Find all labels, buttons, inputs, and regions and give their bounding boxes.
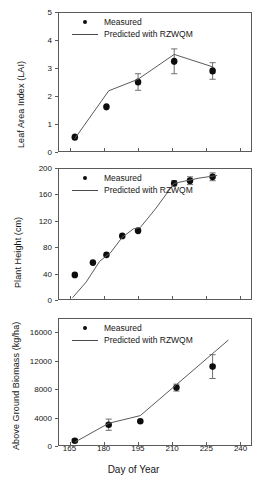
x-tick-mark <box>172 296 173 299</box>
data-point-measured <box>173 384 180 391</box>
x-tick-mark <box>104 296 105 299</box>
legend-entry-measured: Measured <box>70 16 193 28</box>
legend-label-predicted: Predicted with RZWQM <box>100 29 193 39</box>
y-tick-label: 160 <box>39 190 52 199</box>
predicted-line <box>75 54 213 138</box>
x-tick-mark <box>138 148 139 151</box>
y-tick-label: 80 <box>43 243 52 252</box>
measured-dot-icon <box>70 20 100 25</box>
y-tick-label: 0 <box>48 442 52 451</box>
data-point-measured <box>72 272 79 279</box>
y-tick-label: 4 <box>48 36 52 45</box>
x-tick-label: 165 <box>63 444 76 453</box>
legend-label-predicted: Predicted with RZWQM <box>100 335 193 345</box>
legend-label-predicted: Predicted with RZWQM <box>100 185 193 195</box>
legend-entry-predicted: Predicted with RZWQM <box>70 28 193 40</box>
y-tick-label: 5 <box>48 8 52 17</box>
x-tick-mark <box>206 296 207 299</box>
legend-plant-height: Measured Predicted with RZWQM <box>70 172 193 196</box>
y-tick-label: 4000 <box>34 413 52 422</box>
measured-dot-icon <box>70 176 100 181</box>
x-tick-label: 210 <box>165 444 178 453</box>
x-tick-mark <box>240 296 241 299</box>
predicted-line-icon <box>70 340 100 341</box>
x-tick-label: 225 <box>200 444 213 453</box>
y-tick-label: 12000 <box>30 356 52 365</box>
legend-entry-predicted: Predicted with RZWQM <box>70 334 193 346</box>
y-axis-ticks-plant-height: 04080120160200 <box>0 160 52 310</box>
legend-biomass: Measured Predicted with RZWQM <box>70 322 193 346</box>
y-axis-ticks-lai: 012345 <box>0 0 52 160</box>
measured-dot-icon <box>70 326 100 331</box>
predicted-line-icon <box>70 190 100 191</box>
x-axis-ticks: 165180195210225240 <box>58 444 252 458</box>
y-tick-mark <box>55 300 58 301</box>
x-tick-mark <box>70 296 71 299</box>
legend-label-measured: Measured <box>100 323 142 333</box>
panel-above-ground-biomass: Above Ground Biomass (kg/ha) 04000800012… <box>0 310 267 455</box>
y-tick-label: 3 <box>48 64 52 73</box>
data-point-measured <box>209 363 216 370</box>
y-tick-label: 40 <box>43 269 52 278</box>
x-axis-title: Day of Year <box>0 464 267 475</box>
legend-label-measured: Measured <box>100 173 142 183</box>
panel-leaf-area-index: Leaf Area Index (LAI) 012345 Measured Pr… <box>0 0 267 160</box>
y-tick-label: 0 <box>48 148 52 157</box>
x-tick-mark <box>104 148 105 151</box>
legend-entry-measured: Measured <box>70 322 193 334</box>
x-tick-mark <box>206 148 207 151</box>
data-point-measured <box>209 67 216 74</box>
y-tick-label: 8000 <box>34 385 52 394</box>
y-tick-label: 16000 <box>30 328 52 337</box>
figure-crop-growth-panels: Leaf Area Index (LAI) 012345 Measured Pr… <box>0 0 267 489</box>
x-tick-mark <box>70 148 71 151</box>
data-point-measured <box>90 259 97 266</box>
legend-entry-predicted: Predicted with RZWQM <box>70 184 193 196</box>
x-tick-label: 180 <box>97 444 110 453</box>
legend-entry-measured: Measured <box>70 172 193 184</box>
x-tick-mark <box>138 296 139 299</box>
x-tick-label: 195 <box>131 444 144 453</box>
y-axis-ticks-biomass: 0400080001200016000 <box>0 310 52 455</box>
y-tick-label: 200 <box>39 164 52 173</box>
y-tick-mark <box>55 152 58 153</box>
predicted-line <box>75 340 229 442</box>
panel-plant-height: Plant Height (cm) 04080120160200 Measure… <box>0 160 267 310</box>
y-tick-label: 1 <box>48 120 52 129</box>
predicted-line-icon <box>70 34 100 35</box>
x-tick-label: 240 <box>234 444 247 453</box>
x-tick-mark <box>172 148 173 151</box>
y-tick-label: 2 <box>48 92 52 101</box>
data-point-measured <box>171 58 178 65</box>
legend-lai: Measured Predicted with RZWQM <box>70 16 193 40</box>
x-tick-mark <box>240 148 241 151</box>
y-tick-label: 120 <box>39 216 52 225</box>
y-tick-label: 0 <box>48 296 52 305</box>
legend-label-measured: Measured <box>100 17 142 27</box>
data-point-measured <box>137 418 144 425</box>
data-point-measured <box>103 103 110 110</box>
